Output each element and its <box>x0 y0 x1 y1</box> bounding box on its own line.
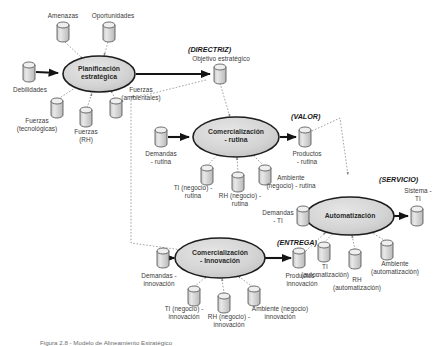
cylinder-rh-negocio-innovacion[interactable] <box>218 293 230 313</box>
cylinder-rh-automatizacion[interactable] <box>349 249 361 269</box>
process-label-comercializacion-innovacion: Comercialización - Innovación <box>170 249 270 265</box>
cylinder-ambiente-negocio-innovacion[interactable] <box>248 286 260 306</box>
cylinder-ti-negocio-rutina[interactable] <box>201 165 213 185</box>
cylinder-sistema-ti[interactable] <box>411 206 423 226</box>
cylinder-debilidades[interactable] <box>23 62 35 82</box>
cylinder-objetivo-estrategico[interactable] <box>214 64 226 84</box>
cylinder-fuerzas-tecnologicas[interactable] <box>51 98 63 118</box>
cylinder-ti-negocio-innovacion[interactable] <box>188 286 200 306</box>
figure-caption: Figura 2.8 - Modelo de Alineamiento Estr… <box>40 339 172 346</box>
cylinder-fuerzas-ambientales[interactable] <box>110 98 122 118</box>
cylinder-productos-innovacion[interactable] <box>293 248 305 268</box>
tag-directriz: (DIRECTRIZ) <box>188 46 231 54</box>
cylinder-productos-rutina[interactable] <box>299 127 311 147</box>
process-label-planificacion: Planificación estratégica <box>54 65 144 81</box>
process-ellipses <box>63 56 394 278</box>
tag-servicio: (SERVICIO) <box>379 176 418 184</box>
cylinder-demandas-rutina[interactable] <box>155 127 167 147</box>
tag-valor: (VALOR) <box>291 113 320 121</box>
cylinder-fuerzas-rh[interactable] <box>80 107 92 127</box>
cylinder-ambiente-negocio-rutina[interactable] <box>259 165 271 185</box>
cylinder-ambiente-automatizacion[interactable] <box>381 240 393 260</box>
tag-entrega: (ENTREGA) <box>277 239 317 247</box>
cylinder-oportunidades[interactable] <box>103 22 115 42</box>
cylinder-amenazas[interactable] <box>57 22 69 42</box>
cylinder-ti-automatizacion[interactable] <box>318 242 330 262</box>
cylinder-demandas-innovacion[interactable] <box>157 248 169 268</box>
cylinder-rh-negocio-rutina[interactable] <box>232 172 244 192</box>
process-label-automatizacion: Automatización <box>305 212 395 220</box>
process-label-comercializacion-rutina: Comercialización - rutina <box>186 128 286 144</box>
